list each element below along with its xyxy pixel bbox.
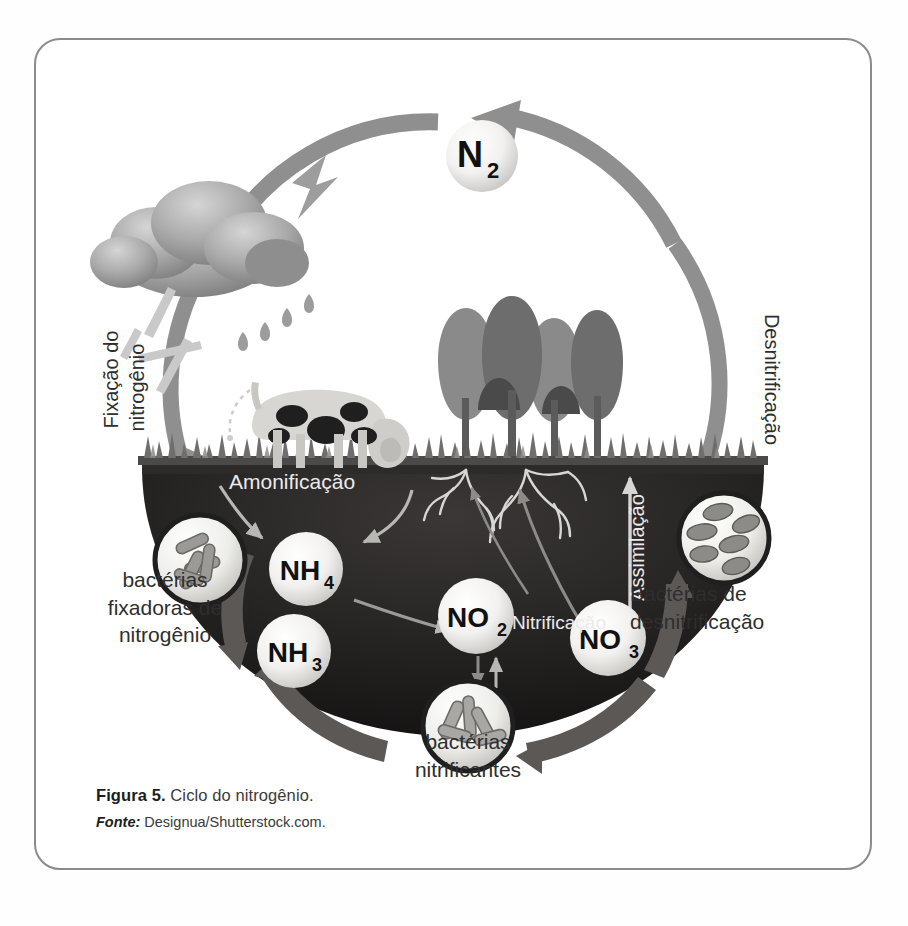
molecule-nh3-label: NH bbox=[268, 637, 308, 668]
label-bacterias-nitrificantes: bactérias nitrificantes bbox=[368, 728, 568, 783]
cow-icon bbox=[227, 382, 409, 468]
figure-page: N 2 NH 4 NH 3 NO 2 NO 3 bbox=[0, 0, 908, 926]
bact-fix-line3: nitrogênio bbox=[70, 621, 260, 649]
cow-urine-stream bbox=[230, 390, 250, 432]
raindrop-icon bbox=[238, 294, 314, 351]
molecule-no2-label: NO bbox=[447, 602, 489, 633]
figure-caption: Figura 5. Ciclo do nitrogênio. Fonte: De… bbox=[96, 786, 616, 830]
molecule-nh3-sub: 3 bbox=[312, 655, 322, 675]
molecule-nh4: NH 4 bbox=[269, 532, 343, 606]
molecule-no3-sub: 3 bbox=[629, 642, 639, 662]
molecule-nh4-sub: 4 bbox=[324, 573, 334, 593]
label-amonificacao: Amonificação bbox=[229, 470, 355, 494]
molecule-no2: NO 2 bbox=[438, 578, 514, 654]
label-bacterias-fixadoras: bactérias fixadoras de nitrogênio bbox=[70, 566, 260, 649]
molecule-n2: N 2 bbox=[446, 120, 518, 192]
bact-fix-line1: bactérias bbox=[70, 566, 260, 594]
rain-cloud-icon bbox=[90, 181, 309, 297]
label-fixacao-line1: Fixação do bbox=[100, 295, 123, 465]
bact-fix-line2: fixadoras de bbox=[70, 594, 260, 622]
bact-nitr-line1: bactérias bbox=[368, 728, 568, 756]
label-bacterias-desnitrificacao: Bactérias de desnitrificação bbox=[630, 580, 870, 635]
molecule-n2-sub: 2 bbox=[487, 158, 499, 183]
bact-nitr-line2: nitrificantes bbox=[368, 756, 568, 784]
molecule-no2-sub: 2 bbox=[497, 620, 507, 640]
caption-figure-text: Ciclo do nitrogênio. bbox=[166, 786, 314, 804]
caption-source-label: Fonte: bbox=[96, 814, 140, 830]
cycle-arrow-icon bbox=[171, 100, 720, 490]
molecule-n2-label: N bbox=[457, 134, 483, 175]
label-nitrificacao: Nitrificação bbox=[512, 612, 606, 634]
diagram-stage: N 2 NH 4 NH 3 NO 2 NO 3 bbox=[34, 38, 872, 870]
caption-figure-number: Figura 5. bbox=[96, 786, 166, 804]
molecule-nh4-label: NH bbox=[280, 555, 320, 586]
tree-icon bbox=[438, 296, 623, 456]
caption-line-1: Figura 5. Ciclo do nitrogênio. bbox=[96, 786, 616, 805]
label-fixacao-line2: nitrogênio bbox=[126, 303, 149, 473]
molecule-nh3: NH 3 bbox=[257, 614, 331, 688]
bact-desn-line1: Bactérias de bbox=[630, 580, 870, 608]
caption-line-2: Fonte: Designua/Shutterstock.com. bbox=[96, 814, 616, 830]
caption-source-text: Designua/Shutterstock.com. bbox=[140, 814, 325, 830]
label-desnitrificacao-arc: Desnitrificação bbox=[760, 265, 783, 495]
oval-bacteria-icon bbox=[679, 493, 769, 583]
bact-desn-line2: desnitrificação bbox=[630, 608, 870, 636]
